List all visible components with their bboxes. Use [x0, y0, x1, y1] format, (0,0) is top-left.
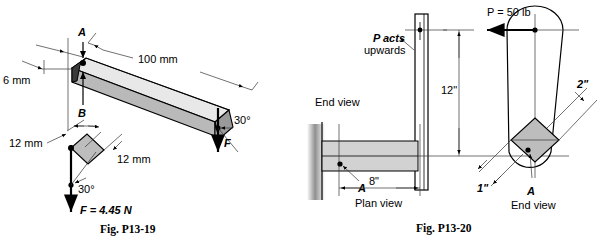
label-30deg-main: 30°: [234, 114, 251, 126]
figure-p13-20: P acts upwards End view A 8": [301, 0, 602, 244]
plan-point-a-marker: [337, 161, 342, 166]
inset-dim-right-arrow: [113, 141, 122, 150]
label-point-a: A: [77, 26, 86, 38]
label-end-view-right: End view: [511, 199, 556, 211]
fig-p13-19-drawing: A B 6 mm 100 mm 30: [0, 0, 301, 244]
figure-page: A B 6 mm 100 mm 30: [0, 0, 602, 244]
dim-6mm-ext-top: [64, 52, 83, 57]
dim-2in-ext-a: [547, 88, 587, 128]
label-p-50lb: P = 50 lb: [487, 6, 531, 18]
label-end-view-point-a: A: [526, 185, 535, 197]
label-inset-force: F = 4.45 N: [80, 204, 133, 216]
figure-p13-19: A B 6 mm 100 mm 30: [0, 0, 301, 244]
dim-2in-ext-b: [559, 100, 597, 140]
label-2in: 2": [576, 78, 589, 90]
label-inset-30deg: 30°: [78, 183, 95, 195]
inset-dim-top-arrow-r: [88, 126, 99, 127]
label-inset-12mm-right: 12 mm: [117, 153, 151, 165]
dim-100mm-witness-right: [252, 82, 258, 90]
label-end-view-left: End view: [315, 96, 360, 108]
inset-dim-left-leader: [47, 134, 66, 143]
fig-p13-20-drawing: P acts upwards End view A 8": [301, 0, 602, 244]
caption-fig-p13-19: Fig. P13-19: [100, 223, 156, 236]
dim-100mm-ext-right: [243, 87, 252, 90]
inset-dim-top-ext-l: [67, 120, 84, 131]
dim-100mm-ext-left: [88, 43, 94, 45]
inset-dim-right-ext: [104, 134, 122, 150]
label-point-b: B: [78, 107, 86, 119]
dim-6mm-arrow-bot: [22, 61, 42, 69]
dim-2in-arrow: [575, 92, 584, 101]
dim-1in-arrow-a: [478, 160, 487, 169]
label-12in: 12": [441, 84, 457, 96]
label-100mm: 100 mm: [138, 53, 178, 65]
label-upwards: upwards: [364, 44, 406, 56]
dim-100mm-arrow-right: [200, 72, 243, 87]
label-force-f: F: [224, 137, 231, 149]
label-inset-12mm-left: 12 mm: [9, 137, 43, 149]
point-a-marker: [80, 60, 86, 66]
force-p-origin: [532, 27, 537, 32]
label-8in: 8": [369, 175, 379, 187]
dim-100mm-witness-left: [88, 33, 96, 43]
end-view-point-a-marker: [525, 147, 530, 152]
dim-1in-arrow-b: [493, 176, 501, 184]
dim-6mm-arrow-top: [36, 45, 64, 52]
label-plan-view: Plan view: [355, 197, 402, 209]
dim-100mm-arrow-left: [94, 45, 103, 50]
dim-100mm-line-left: [103, 50, 133, 58]
caption-fig-p13-20: Fig. P13-20: [416, 222, 472, 235]
inset-cross-section: [71, 134, 104, 164]
label-6mm: 6 mm: [3, 74, 31, 86]
label-1in: 1": [477, 182, 489, 194]
